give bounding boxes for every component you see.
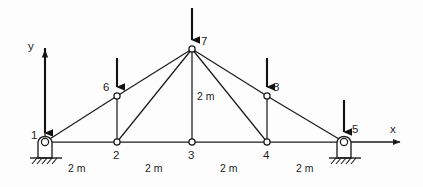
member-1-6 — [45, 96, 117, 142]
dim-label-4-5: 2 m — [296, 163, 314, 174]
dim-label-2-3: 2 m — [145, 163, 163, 174]
node-label-6: 6 — [103, 82, 109, 94]
node-label-4: 4 — [263, 150, 269, 162]
load-arrows — [45, 8, 344, 133]
joint-markers — [41, 46, 347, 146]
joint-7 — [189, 46, 195, 52]
node-label-1: 1 — [31, 130, 37, 142]
x-axis-label: x — [390, 124, 396, 136]
node-label-5: 5 — [352, 124, 358, 136]
member-6-7 — [117, 49, 192, 96]
joint-5 — [340, 138, 347, 145]
member-7-8 — [192, 49, 267, 96]
node-label-8: 8 — [273, 82, 279, 94]
joint-1 — [41, 138, 48, 145]
member-7-2 — [117, 49, 192, 142]
axis-group — [45, 50, 400, 142]
dim-label-height: 2 m — [197, 91, 215, 102]
node-label-7: 7 — [201, 36, 207, 48]
joint-8 — [264, 93, 270, 99]
node-label-2: 2 — [113, 150, 119, 162]
member-8-5 — [267, 96, 344, 142]
joint-4 — [264, 139, 270, 145]
dim-label-1-2: 2 m — [68, 163, 86, 174]
joint-6 — [114, 93, 120, 99]
truss-members — [45, 49, 344, 142]
joint-2 — [114, 139, 120, 145]
dim-label-3-4: 2 m — [220, 163, 238, 174]
joint-3 — [189, 139, 195, 145]
node-label-3: 3 — [188, 150, 194, 162]
y-axis-label: y — [28, 41, 34, 53]
truss-diagram: y x 1 2 3 4 5 6 7 8 2 m 2 m 2 m 2 m 2 m — [0, 0, 423, 187]
